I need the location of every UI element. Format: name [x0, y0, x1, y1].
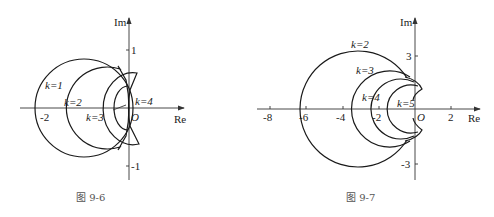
label-k2: k=2 [64, 96, 82, 108]
tick-label-y-1: 1 [131, 44, 137, 56]
tick-label-x-neg2: -2 [372, 111, 381, 123]
tick-label-y-neg3: -3 [401, 158, 411, 170]
label-k4: k=4 [362, 91, 380, 103]
label-k4: k=4 [135, 95, 153, 107]
origin-label: O [131, 111, 139, 123]
label-k3: k=3 [356, 64, 374, 76]
label-k5: k=5 [397, 97, 415, 109]
figure-caption: 图 9-7 [346, 192, 375, 203]
tick-label-x-neg8: -8 [263, 111, 273, 123]
re-axis-label: Re [468, 112, 480, 124]
tick-label-y-3: 3 [406, 50, 412, 62]
figure-9-6: k=1 k=2 k=3 k=4 -2 1 -1 O Re Im 图 9-6 [20, 16, 186, 203]
tick-label-x-2: 2 [448, 111, 454, 123]
tick-label-x-neg6: -6 [299, 111, 309, 123]
label-k1: k=1 [45, 79, 63, 91]
im-axis-label: Im [400, 16, 413, 28]
origin-label: O [417, 111, 425, 123]
figure-caption: 图 9-6 [76, 192, 105, 203]
k4-leader-line [113, 105, 126, 110]
tick-label-x-neg2: -2 [40, 111, 49, 123]
tick-label-y-neg1: -1 [131, 160, 140, 172]
re-axis-label: Re [174, 113, 186, 125]
tick-label-x-neg4: -4 [336, 111, 346, 123]
label-k3: k=3 [86, 111, 104, 123]
label-k2: k=2 [351, 38, 369, 50]
figure-9-7: k=2 k=3 k=4 k=5 -8 -6 -4 -2 2 3 -3 O Re … [257, 16, 480, 203]
im-axis-label: Im [114, 16, 127, 28]
diagram-canvas: k=1 k=2 k=3 k=4 -2 1 -1 O Re Im 图 9-6 k [0, 0, 494, 217]
nyquist-curve-k3 [103, 73, 139, 145]
